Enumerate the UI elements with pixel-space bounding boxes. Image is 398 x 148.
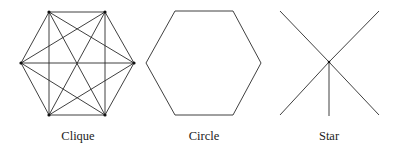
circle-edge <box>233 11 261 63</box>
clique-label: Clique <box>61 129 94 143</box>
clique-node <box>132 61 135 64</box>
star-edge <box>329 62 379 115</box>
clique-edge <box>21 12 49 63</box>
clique-graph <box>19 10 135 116</box>
circle-label: Circle <box>189 129 220 143</box>
clique-node <box>103 113 106 116</box>
clique-edge <box>105 12 134 63</box>
clique-node <box>47 113 50 116</box>
clique-edge <box>49 63 134 115</box>
star-hub-node <box>328 61 331 64</box>
clique-node <box>103 10 106 13</box>
circle-edge <box>233 63 261 115</box>
star-graph <box>280 11 379 116</box>
star-edge <box>280 11 329 62</box>
clique-edge <box>21 63 105 115</box>
network-topologies-diagram <box>0 0 398 148</box>
star-label: Star <box>319 129 339 143</box>
circle-graph <box>146 11 261 115</box>
clique-node <box>19 61 22 64</box>
star-edge <box>280 62 329 115</box>
clique-edge <box>21 63 49 115</box>
clique-edge <box>105 63 134 115</box>
clique-edge <box>21 12 105 63</box>
circle-edge <box>146 63 175 115</box>
circle-edge <box>146 11 175 63</box>
star-edge <box>329 11 379 62</box>
clique-node <box>47 10 50 13</box>
